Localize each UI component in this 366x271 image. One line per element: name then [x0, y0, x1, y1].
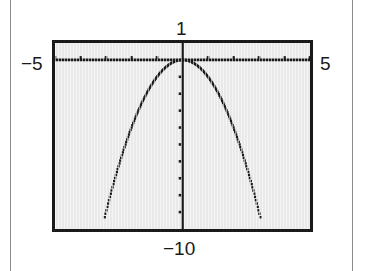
calculator-screen: [52, 40, 313, 232]
y-tick: [178, 76, 182, 79]
y-tick: [178, 143, 182, 146]
window-label-xmax: 5: [320, 54, 331, 73]
plot-canvas: [55, 43, 310, 229]
y-tick: [178, 194, 182, 197]
y-tick: [178, 177, 182, 180]
graphing-calculator-figure: 1 −5 5 −10: [0, 0, 366, 271]
x-tick: [55, 56, 56, 59]
y-tick: [178, 126, 182, 129]
x-tick: [258, 56, 261, 59]
x-tick: [232, 56, 235, 59]
x-tick: [283, 56, 286, 59]
window-label-xmin: −5: [21, 54, 43, 73]
window-label-ymin: −10: [163, 239, 195, 258]
x-tick: [79, 56, 82, 59]
x-tick: [207, 56, 210, 59]
y-tick: [178, 109, 182, 112]
y-tick: [178, 211, 182, 214]
x-tick: [105, 56, 108, 59]
window-label-ymax: 1: [176, 19, 187, 38]
x-tick: [156, 56, 159, 59]
x-tick: [309, 56, 310, 59]
x-tick: [130, 56, 133, 59]
y-tick: [178, 92, 182, 95]
y-tick: [178, 160, 182, 163]
